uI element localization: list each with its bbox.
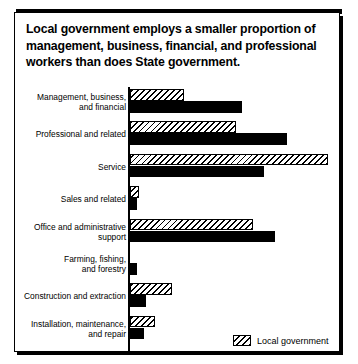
bar-state-government [130,295,146,307]
bar-group [130,121,287,145]
bar-local-government [130,316,155,328]
bar-local-government [130,186,139,198]
chart-legend: Local government [233,335,329,346]
category-label: Construction and extraction [0,291,126,301]
bar-state-government [130,166,264,178]
category-label: Office and administrativesupport [0,222,126,242]
category-label-line: and financial [0,102,126,112]
category-label-line: Management, business, [0,92,126,102]
bar-local-government [130,89,184,101]
category-label: Farming, fishing,and forestry [0,254,126,274]
bar-group [130,154,328,178]
bar-group [130,283,172,307]
category-label: Professional and related [0,129,126,139]
bar-state-government [130,263,137,275]
legend-label-local-government: Local government [257,336,329,346]
bar-state-government [130,231,275,243]
bar-local-government [130,219,253,231]
category-label: Service [0,162,126,172]
category-label-line: and forestry [0,264,126,274]
chart-figure: Local government employs a smaller propo… [14,12,340,352]
category-label-line: and repair [0,329,126,339]
bar-state-government [130,328,144,340]
bar-local-government [130,283,172,295]
bar-local-government [130,154,328,166]
bar-group [130,219,275,243]
category-label: Installation, maintenance,and repair [0,319,126,339]
category-label-line: Construction and extraction [0,291,126,301]
category-label-line: Service [0,162,126,172]
bar-group [130,316,155,340]
chart-title: Local government employs a smaller propo… [26,21,326,71]
category-label: Sales and related [0,194,126,204]
bar-state-government [130,198,137,210]
legend-swatch-local-government [233,335,251,346]
bar-state-government [130,133,287,145]
bar-local-government [130,121,236,133]
category-label-line: Installation, maintenance, [0,319,126,329]
category-label-line: Office and administrative [0,222,126,232]
category-label: Management, business,and financial [0,92,126,112]
bar-group [130,186,139,210]
category-label-line: Farming, fishing, [0,254,126,264]
bar-state-government [130,101,242,113]
bar-group [130,89,242,113]
plot-area: Management, business,and financialProfes… [15,87,341,353]
category-label-line: Sales and related [0,194,126,204]
category-label-line: Professional and related [0,129,126,139]
category-label-line: support [0,232,126,242]
bar-group [130,251,137,275]
